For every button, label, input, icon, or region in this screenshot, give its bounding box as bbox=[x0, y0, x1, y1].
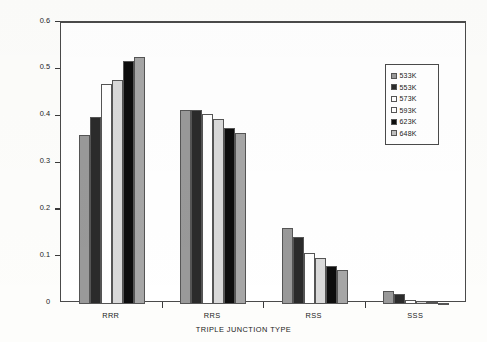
legend-item-623K: 623K bbox=[391, 116, 434, 128]
x-tick-mark bbox=[162, 302, 163, 308]
x-category-label-SSS: SSS bbox=[365, 311, 467, 320]
legend-item-573K: 573K bbox=[391, 93, 434, 105]
bar-RSS-533K bbox=[282, 228, 293, 304]
legend-item-label: 573K bbox=[400, 95, 417, 102]
legend-swatch-icon bbox=[391, 84, 397, 90]
bar-RRS-553K bbox=[191, 110, 202, 304]
bar-RRS-593K bbox=[213, 119, 224, 304]
y-tick-label: 0.3 bbox=[40, 156, 50, 165]
legend-item-533K: 533K bbox=[391, 70, 434, 82]
bar-RSS-648K bbox=[337, 270, 348, 304]
bar-RRS-573K bbox=[202, 114, 213, 304]
bar-RRS-533K bbox=[180, 110, 191, 304]
y-tick-label: 0.5 bbox=[40, 62, 50, 71]
legend-swatch-icon bbox=[391, 96, 397, 102]
legend-swatch-icon bbox=[391, 107, 397, 113]
legend-item-553K: 553K bbox=[391, 82, 434, 94]
legend-item-label: 648K bbox=[400, 130, 417, 137]
bar-chart-figure: FRACTION 00.10.20.30.40.50.6 RRRRRSRSSSS… bbox=[0, 0, 487, 342]
legend-item-648K: 648K bbox=[391, 128, 434, 140]
x-category-label-RRR: RRR bbox=[60, 311, 162, 320]
bar-RSS-623K bbox=[326, 266, 337, 304]
legend-item-label: 533K bbox=[400, 72, 417, 79]
bar-RSS-573K bbox=[304, 253, 315, 304]
legend-item-label: 593K bbox=[400, 107, 417, 114]
bar-SSS-573K bbox=[405, 300, 416, 304]
bar-RRR-553K bbox=[90, 117, 101, 304]
legend-item-593K: 593K bbox=[391, 105, 434, 117]
bar-RRS-648K bbox=[235, 133, 246, 304]
bar-RRS-623K bbox=[224, 128, 235, 304]
bar-SSS-648K bbox=[438, 303, 449, 305]
bar-RRR-623K bbox=[123, 61, 134, 304]
legend-swatch-icon bbox=[391, 119, 397, 125]
x-axis-title: TRIPLE JUNCTION TYPE bbox=[0, 325, 487, 334]
x-category-label-RSS: RSS bbox=[263, 311, 365, 320]
bar-SSS-593K bbox=[416, 301, 427, 304]
legend-item-label: 623K bbox=[400, 118, 417, 125]
bar-SSS-553K bbox=[394, 294, 405, 304]
bar-RRR-573K bbox=[101, 84, 112, 304]
legend-swatch-icon bbox=[391, 130, 397, 136]
legend: 533K553K573K593K623K648K bbox=[385, 64, 439, 145]
y-tick-label: 0.4 bbox=[40, 109, 50, 118]
x-tick-mark bbox=[263, 302, 264, 308]
y-tick-label: 0.6 bbox=[40, 16, 50, 25]
bar-RRR-593K bbox=[112, 80, 123, 304]
legend-swatch-icon bbox=[391, 73, 397, 79]
y-tick-label: 0 bbox=[46, 297, 50, 306]
bar-RRR-533K bbox=[79, 135, 90, 304]
x-tick-mark bbox=[365, 302, 366, 308]
bar-RSS-593K bbox=[315, 258, 326, 304]
legend-item-label: 553K bbox=[400, 84, 417, 91]
bar-SSS-533K bbox=[383, 291, 394, 304]
bar-RRR-648K bbox=[134, 57, 145, 304]
bar-RSS-553K bbox=[293, 237, 304, 304]
bar-SSS-623K bbox=[427, 302, 438, 304]
x-category-label-RRS: RRS bbox=[162, 311, 264, 320]
y-tick-label: 0.2 bbox=[40, 203, 50, 212]
y-tick-label: 0.1 bbox=[40, 250, 50, 259]
